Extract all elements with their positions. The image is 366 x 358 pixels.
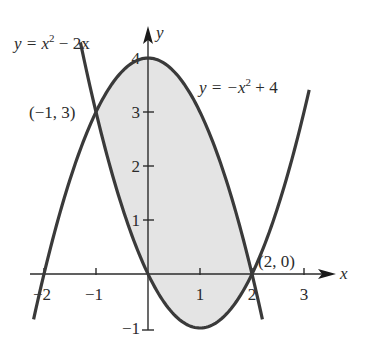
y-tick-label: 2 xyxy=(132,157,141,176)
equation-label-upward-parabola: y = x2 − 2x xyxy=(12,32,90,53)
y-axis-label: y xyxy=(154,23,164,42)
equation-upward-prefix: y = x xyxy=(12,34,50,53)
equation-downward-prefix: y = −x xyxy=(197,78,246,97)
intersection-label-neg1-3: (−1, 3) xyxy=(29,103,75,122)
x-tick-label: 1 xyxy=(196,285,205,304)
y-tick-label: −1 xyxy=(122,319,140,338)
equation-label-downward-parabola: y = −x2 + 4 xyxy=(197,76,278,97)
graph-canvas: −2−1123 −11234 x y y = x2 − 2x y = −x2 +… xyxy=(0,0,366,358)
y-tick-label: 1 xyxy=(132,211,141,230)
parabola-region-figure: −2−1123 −11234 x y y = x2 − 2x y = −x2 +… xyxy=(0,0,366,358)
y-tick-label: 3 xyxy=(132,103,141,122)
equation-upward-suffix: − 2x xyxy=(55,34,91,53)
x-tick-label: 3 xyxy=(300,285,309,304)
equation-downward-suffix: + 4 xyxy=(251,78,278,97)
intersection-label-2-0: (2, 0) xyxy=(258,252,295,271)
x-axis-label: x xyxy=(339,264,348,283)
x-tick-label: −1 xyxy=(85,285,103,304)
